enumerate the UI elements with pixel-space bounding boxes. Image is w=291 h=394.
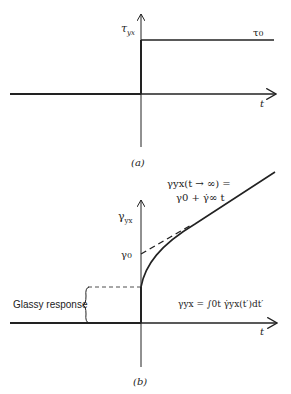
tau0-label: τ0	[253, 27, 264, 38]
gamma-yx-label: γyx	[118, 210, 132, 225]
caption-b: (b)	[133, 376, 147, 387]
panel-a-axes	[10, 14, 276, 147]
diagram-lines	[0, 0, 291, 394]
glassy-response-label: Glassy response	[13, 299, 87, 310]
integral-label: γyx = ∫0t γ̇yx(t′)dt′	[178, 299, 263, 309]
t-axis-label-a: t	[260, 98, 264, 109]
gamma0-label: γ0	[121, 249, 132, 260]
panel-a-step	[10, 40, 274, 94]
panel-b-axes	[10, 200, 277, 367]
tau-yx-label: τyx	[121, 22, 135, 37]
figure: τyx τ0 t (a) γyx(t → ∞) = γ0 + γ̇∞ t γyx…	[0, 0, 291, 394]
t-axis-label-b: t	[260, 326, 264, 337]
asymptote-line2: γ0 + γ̇∞ t	[176, 192, 225, 203]
caption-a: (a)	[131, 157, 145, 168]
asymptote-line1: γyx(t → ∞) =	[167, 178, 231, 189]
